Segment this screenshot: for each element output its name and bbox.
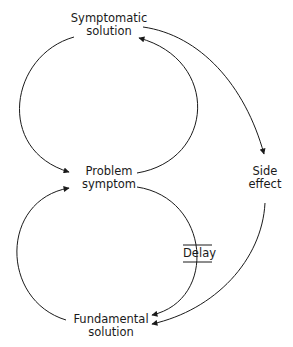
node-label-line: effect [245, 178, 285, 191]
edge-sideeffect-to-fundamental [152, 203, 265, 324]
node-fundamental-solution: Fundamental solution [70, 313, 152, 339]
node-problem-symptom: Problem symptom [76, 165, 142, 191]
edge-problem-to-symptomatic [137, 38, 198, 173]
node-label-line: solution [70, 25, 148, 38]
edge-symptomatic-to-problem [19, 37, 74, 172]
node-side-effect: Side effect [245, 165, 285, 191]
diagram-canvas: Symptomatic solution Problem symptom Sid… [0, 0, 293, 347]
node-label-line: solution [70, 326, 152, 339]
node-symptomatic-solution: Symptomatic solution [70, 12, 148, 38]
delay-label: Delay [183, 247, 213, 260]
node-label-line: symptom [76, 178, 142, 191]
edge-symptomatic-to-sideeffect [143, 27, 264, 154]
edge-fundamental-to-problem [17, 188, 69, 320]
